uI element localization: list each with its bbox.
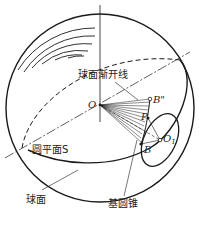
label-involute: 球面渐开线 bbox=[78, 68, 128, 80]
point-b bbox=[139, 142, 142, 145]
point-o1 bbox=[158, 138, 162, 142]
leader-base-cone bbox=[124, 140, 137, 196]
label-b: B bbox=[143, 144, 151, 155]
leader-sphere bbox=[42, 170, 78, 190]
label-o1: O1 bbox=[163, 133, 176, 146]
involute-arcs bbox=[18, 28, 95, 72]
point-o bbox=[99, 104, 102, 107]
label-origin: O bbox=[88, 99, 96, 110]
label-sphere: 球面 bbox=[26, 193, 46, 205]
leader-involute bbox=[115, 82, 138, 100]
spherical-involute-diagram: 球面渐开线 O B" P O1 B 圆平面S 球面 基圆锥 bbox=[0, 0, 199, 226]
label-p: P bbox=[140, 111, 148, 122]
label-b-double-prime: B" bbox=[152, 94, 165, 105]
label-circle-plane: 圆平面S bbox=[32, 144, 68, 155]
point-b-double-prime bbox=[148, 97, 152, 101]
label-base-cone: 基圆锥 bbox=[108, 197, 138, 209]
